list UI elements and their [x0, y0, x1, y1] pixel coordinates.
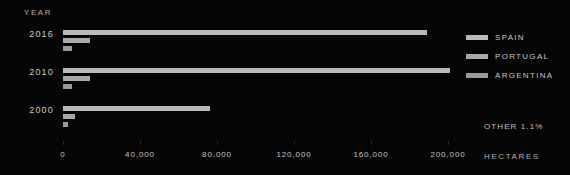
bar-chart: YEAR HECTARES 201620102000 040,00080,000… [0, 0, 570, 175]
x-tick-label: 80,000 [202, 150, 232, 159]
legend-item-portugal: PORTUGAL [466, 47, 566, 66]
x-tick-mark [448, 141, 449, 145]
x-tick-label: 40,000 [125, 150, 155, 159]
legend-swatch-spain [466, 35, 488, 40]
chart-legend: SPAINPORTUGALARGENTINA [466, 28, 566, 85]
x-tick-mark [140, 141, 141, 145]
legend-swatch-portugal [466, 54, 488, 59]
legend-swatch-argentina [466, 73, 488, 78]
x-tick-label: 200,000 [430, 150, 465, 159]
x-tick-mark [63, 141, 64, 145]
x-tick-mark [217, 141, 218, 145]
legend-item-argentina: ARGENTINA [466, 66, 566, 85]
legend-label: ARGENTINA [495, 71, 553, 80]
legend-label: SPAIN [495, 33, 525, 42]
x-tick-label: 120,000 [276, 150, 311, 159]
legend-item-spain: SPAIN [466, 28, 566, 47]
x-tick-mark [371, 141, 372, 145]
x-tick-label: 0 [60, 150, 65, 159]
other-annotation: OTHER 1.1% [484, 122, 543, 131]
x-tick-label: 160,000 [353, 150, 388, 159]
x-tick-mark [294, 141, 295, 145]
legend-label: PORTUGAL [495, 52, 549, 61]
x-axis: 040,00080,000120,000160,000200,000 [0, 0, 570, 175]
